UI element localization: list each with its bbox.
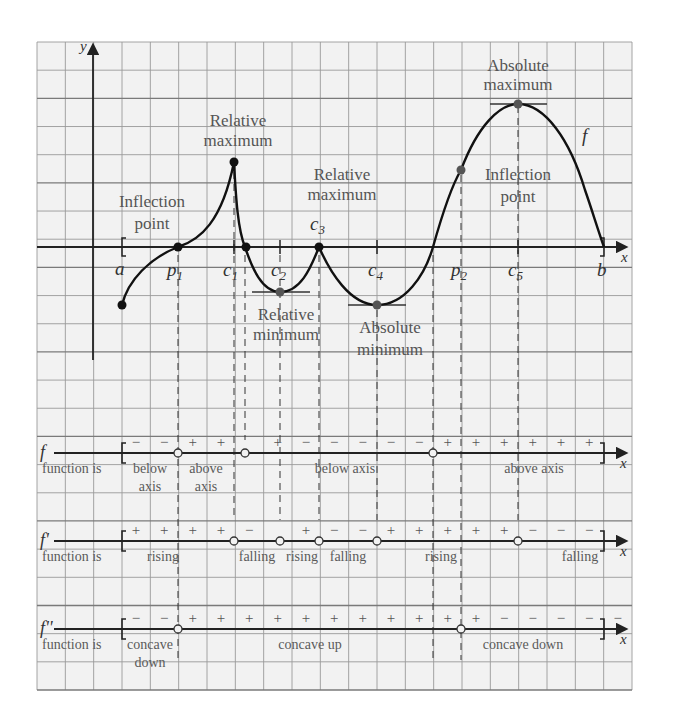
zero-marker [514,537,522,545]
sign-chart-label: f' [40,530,50,550]
sign-mark: − [245,522,253,538]
sign-mark: + [273,434,281,450]
function-is-label: function is [42,461,102,476]
sign-mark: − [557,610,565,626]
zero-marker [174,625,182,633]
zero-marker [373,537,381,545]
sign-mark: + [330,610,338,626]
interval-description: falling [330,549,367,564]
sign-mark: − [557,522,565,538]
function-is-label: function is [42,549,102,564]
sign-mark: + [245,610,253,626]
sign-mark: − [528,522,536,538]
sign-mark: + [472,522,480,538]
zero-marker [276,537,284,545]
sign-mark: − [160,434,168,450]
interval-description: rising [425,549,457,564]
sign-mark: + [188,610,196,626]
endpoint-a [118,301,127,310]
sign-mark: + [302,522,310,538]
sign-mark: − [160,610,168,626]
relative-min-c2 [276,288,285,297]
sign-mark: − [585,610,593,626]
sign-mark: + [500,434,508,450]
inflection-point-p2 [457,166,466,175]
sign-mark: − [613,610,621,626]
sign-mark: − [302,434,310,450]
interval-description: above axis [504,461,563,476]
sign-mark: + [557,434,565,450]
sign-mark: + [217,522,225,538]
sign-mark: + [387,522,395,538]
interval-description: falling [562,549,599,564]
svg-text:a: a [115,258,125,279]
sign-mark: − [415,434,423,450]
sign-mark: + [415,610,423,626]
sign-mark: − [528,610,536,626]
inflection-point-p1 [174,243,183,252]
sign-mark: − [330,434,338,450]
sign-mark: + [472,434,480,450]
calculus-curve-sketch-figure: y x a p1 c1 c2 c3 [0,0,676,727]
sign-mark: + [443,610,451,626]
y-axis-label: y [78,38,87,54]
sign-mark: + [358,610,366,626]
interval-description: concave up [278,637,341,652]
x-axis-label: x [620,249,628,265]
sign-mark: − [132,434,140,450]
sign-mark: + [273,610,281,626]
interval-description: below axis [315,461,375,476]
sign-mark: − [358,522,366,538]
interval-description: rising [147,549,179,564]
sign-mark: + [188,522,196,538]
sign-mark: − [387,434,395,450]
sign-mark: + [443,522,451,538]
sign-mark: + [387,610,395,626]
sign-mark: + [188,434,196,450]
sign-mark: − [132,610,140,626]
sign-mark: + [217,610,225,626]
sign-mark: + [160,522,168,538]
svg-text:x: x [619,631,627,647]
svg-text:b: b [597,259,607,280]
svg-text:x: x [619,543,627,559]
zero-marker [241,449,249,457]
sign-mark: + [585,434,593,450]
relative-maximum-label-1: Relativemaximum [204,111,273,150]
sign-mark: − [358,434,366,450]
relative-maximum-label-2: Relativemaximum [308,165,377,204]
sign-mark: + [528,434,536,450]
zero-crossing-point [242,243,251,252]
graph-paper-grid [37,42,632,690]
zero-marker [429,449,437,457]
sign-mark: + [217,434,225,450]
sign-chart-label: f'' [40,618,54,638]
sign-mark: − [585,522,593,538]
function-is-label: function is [42,637,102,652]
absolute-max-c5 [514,100,523,109]
interval-description: rising [286,549,318,564]
interval-description: concave down [483,637,563,652]
zero-marker [315,537,323,545]
sign-mark: + [500,522,508,538]
sign-mark: + [443,434,451,450]
relative-max-c1 [230,158,239,167]
sign-mark: − [330,522,338,538]
relative-max-c3 [315,243,324,252]
sign-mark: + [302,610,310,626]
svg-text:x: x [619,455,627,471]
sign-mark: + [415,522,423,538]
relative-minimum-label: Relativeminimum [253,305,319,344]
zero-marker [174,449,182,457]
interval-description: falling [239,549,276,564]
absolute-min-c4 [373,301,382,310]
zero-marker [457,625,465,633]
zero-marker [230,537,238,545]
sign-mark: + [472,610,480,626]
sign-mark: + [132,522,140,538]
absolute-maximum-label: Absolutemaximum [484,56,553,94]
sign-mark: − [500,610,508,626]
